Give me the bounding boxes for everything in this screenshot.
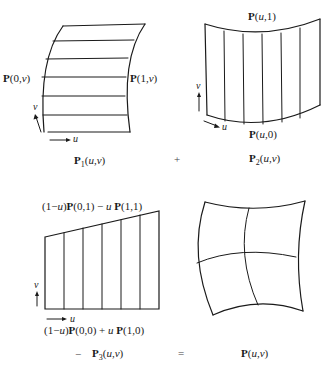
p1-left-boundary xyxy=(43,26,63,132)
p1-right-label: P(1,v) xyxy=(130,72,157,84)
p2-bottom-boundary xyxy=(207,105,320,123)
p2-bottom-label: P(u,0) xyxy=(249,128,277,140)
p1-left-label: P(0,v) xyxy=(3,72,30,84)
p-caption: P(u,v) xyxy=(241,347,268,359)
p3-axis-u: u xyxy=(70,313,75,324)
p2-axis-u: u xyxy=(222,121,227,132)
p2-caption: P2(u,v) xyxy=(249,152,280,169)
minus-operator: − xyxy=(75,348,81,360)
surface-p2 xyxy=(205,19,320,124)
p3-axes xyxy=(35,291,67,321)
p2-top-label: P(u,1) xyxy=(248,10,276,22)
p3-axis-v: v xyxy=(34,279,38,290)
surface-p3 xyxy=(45,211,159,309)
p3-top-label: (1−u)P(0,1) − u P(1,1) xyxy=(42,200,142,212)
p3-bottom-label: (1−u)P(0,0) + u P(1,0) xyxy=(44,324,144,336)
p1-axis-u: u xyxy=(73,133,78,144)
p2-axis-v: v xyxy=(196,80,200,91)
p1-caption: P1(u,v) xyxy=(74,154,105,171)
p1-axis-v: v xyxy=(33,101,37,112)
p3-caption: P3(u,v) xyxy=(92,347,123,364)
p1-axes xyxy=(34,114,72,142)
plus-operator: + xyxy=(174,153,180,165)
p2-axes xyxy=(197,92,220,128)
p1-top-edge xyxy=(63,24,145,26)
surface-p xyxy=(197,201,305,315)
coons-patch-diagram xyxy=(0,0,334,368)
equals-operator: = xyxy=(178,347,184,359)
